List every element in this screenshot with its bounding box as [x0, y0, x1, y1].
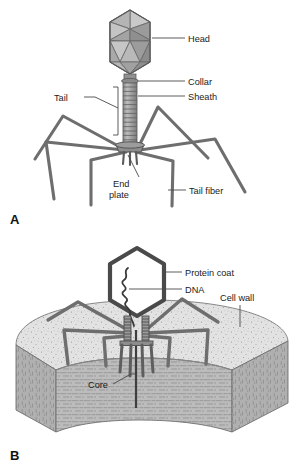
- label-end-plate-line2: plate: [109, 190, 129, 200]
- tail-fiber: [140, 139, 245, 192]
- phage-collar-a: [122, 74, 139, 84]
- label-tail: Tail: [54, 93, 68, 103]
- phage-sheath-a: [123, 83, 137, 145]
- label-cell-wall: Cell wall: [220, 293, 254, 303]
- label-sheath: Sheath: [188, 92, 217, 102]
- label-end-plate-line1: End: [113, 179, 129, 189]
- panel-b-illustration: Protein coat DNA Cell wall Core: [16, 248, 288, 432]
- panel-letter-a: A: [10, 213, 19, 226]
- label-dna: DNA: [185, 285, 205, 295]
- tail-fiber: [138, 107, 208, 158]
- label-head: Head: [188, 34, 210, 44]
- leader-tail-line: [84, 97, 118, 108]
- label-protein-coat: Protein coat: [185, 268, 234, 278]
- phage-diagram-svg: Head Collar Tail Sheath End plate Tail f…: [0, 0, 307, 464]
- label-collar: Collar: [188, 77, 212, 87]
- protein-coat-b: [110, 248, 164, 316]
- tail-fiber: [136, 152, 173, 206]
- leader-tail: [113, 87, 118, 135]
- phage-head-a: [110, 10, 150, 74]
- phage-figure: Head Collar Tail Sheath End plate Tail f…: [0, 0, 307, 464]
- label-tail-fiber: Tail fiber: [189, 186, 223, 196]
- panel-letter-b: B: [10, 449, 19, 462]
- label-core: Core: [88, 380, 108, 390]
- panel-a-illustration: Head Collar Tail Sheath End plate Tail f…: [35, 10, 245, 206]
